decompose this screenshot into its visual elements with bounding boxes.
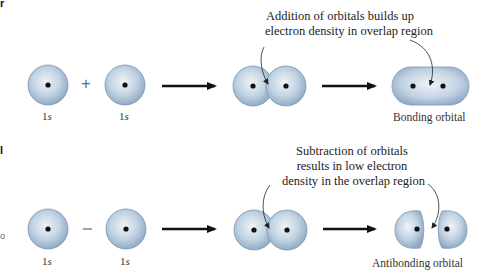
top-annotation: Addition of orbitals builds up electron … (265, 9, 415, 39)
bottom-annotation: Subtraction of orbitals results in low e… (282, 144, 422, 189)
cropped-side-text: o (0, 232, 5, 241)
nucleus-icon (283, 83, 288, 88)
orbital-label-1s-left: 1s (42, 110, 52, 122)
nucleus-icon (444, 226, 449, 231)
cropped-label-bottom: l (0, 144, 3, 156)
orbital-label-1s-right: 1s (119, 110, 129, 122)
bottom-annotation-line-2: results in low electron (282, 159, 422, 174)
bonding-orbital-label: Bonding orbital (393, 111, 466, 123)
bottom-annotation-line-1: Subtraction of orbitals (282, 144, 422, 159)
bonding-orbital (392, 67, 469, 105)
overlapping-orbitals (233, 66, 306, 106)
orbital-label-1s-right: 1s (120, 255, 130, 267)
bottom-row (28, 184, 467, 250)
orbital-1s-right (105, 65, 145, 105)
orbital-1s-right (106, 209, 146, 249)
antibonding-orbital-label: Antibonding orbital (372, 257, 463, 269)
nucleus-icon (410, 83, 415, 88)
pointer-arrow-icon (428, 184, 439, 228)
nucleus-icon (123, 226, 128, 231)
nucleus-icon (122, 82, 127, 87)
overlapping-orbitals (234, 210, 307, 250)
antibonding-orbital (395, 211, 467, 249)
top-annotation-line-2: electron density in overlap region (265, 24, 415, 39)
nucleus-icon (45, 82, 50, 87)
nucleus-icon (250, 83, 255, 88)
nucleus-icon (440, 83, 445, 88)
orbital-label-1s-left: 1s (42, 255, 52, 267)
nucleus-icon (284, 227, 289, 232)
bottom-annotation-line-3: density in the overlap region (282, 174, 422, 189)
nucleus-icon (414, 226, 419, 231)
nucleus-icon (45, 226, 50, 231)
top-annotation-line-1: Addition of orbitals builds up (265, 9, 415, 24)
nucleus-icon (251, 227, 256, 232)
orbital-1s-left (28, 209, 68, 249)
orbital-1s-left (28, 65, 68, 105)
plus-sign: + (81, 75, 90, 92)
orbital-diagram: + (0, 0, 498, 279)
cropped-label-top: r (0, 0, 4, 9)
top-row: + (28, 40, 469, 106)
